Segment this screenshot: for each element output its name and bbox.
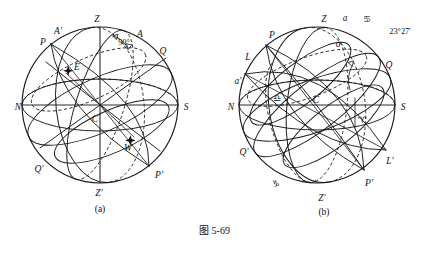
label-angle-90-a: 90° bbox=[118, 38, 130, 47]
figure-container: Z Z' A' A P Q E N S C W Q' P' 90° (a) bbox=[0, 0, 429, 253]
east-star-marker-a bbox=[63, 66, 73, 76]
label-north-a: N bbox=[14, 102, 22, 112]
label-pole-south-a: P' bbox=[154, 170, 164, 180]
declination-parallel-lower-ellipse-a bbox=[47, 87, 177, 176]
label-south-b: S bbox=[401, 102, 406, 112]
label-alpha-left-b: a' bbox=[235, 76, 243, 86]
label-equator-lower-left-b: Q' bbox=[240, 147, 250, 157]
label-center-b: C bbox=[313, 95, 320, 105]
label-azimuth-right-a: A bbox=[136, 29, 143, 39]
figure-caption: 图 5-69 bbox=[0, 222, 429, 237]
meridian-back-b bbox=[309, 27, 355, 185]
label-zenith-b: Z bbox=[321, 14, 327, 24]
label-sigma-b: σ bbox=[336, 39, 341, 49]
label-west-a: W bbox=[124, 143, 133, 153]
label-ecliptic-pole-right-b: L' bbox=[385, 156, 394, 166]
label-pole-north-b: P bbox=[268, 30, 275, 40]
label-equator-upper-a: Q bbox=[160, 46, 167, 56]
label-east-a: E bbox=[73, 62, 80, 72]
label-obliquity-b: 23°27' bbox=[389, 27, 411, 36]
declination-parallel-upper-b bbox=[241, 37, 373, 118]
label-equator-right-b: Q bbox=[386, 60, 393, 70]
label-nadir-a: Z' bbox=[95, 188, 103, 198]
sign-libra-icon-b: ♎ bbox=[273, 93, 281, 103]
label-ecliptic-pole-left-b: L bbox=[244, 52, 250, 62]
label-pole-north-a: P bbox=[39, 37, 46, 47]
label-north-b: N bbox=[227, 102, 235, 112]
sign-capricorn-icon-b: ♑ bbox=[272, 179, 280, 189]
obliquity-arrow-head-b bbox=[348, 61, 353, 66]
vertical-circle-front-a bbox=[53, 23, 124, 179]
declination-parallel-upper-group-b bbox=[241, 37, 373, 118]
label-zenith-a: Z bbox=[94, 14, 100, 24]
sign-cancer-icon-b: ♋ bbox=[363, 14, 371, 24]
label-south-a: S bbox=[184, 102, 189, 112]
label-pole-south-b: P' bbox=[364, 178, 374, 188]
panel-caption-a: (a) bbox=[95, 204, 106, 215]
label-nadir-b: Z' bbox=[318, 193, 326, 203]
hour-circle-a-front-b bbox=[259, 28, 328, 189]
label-azimuth-left-a: A' bbox=[53, 26, 63, 36]
diagram-panel-b: Z a ♋ 23°27' P σ L Q a' ♎ N S C ♈ Q' ♑ L… bbox=[214, 0, 429, 222]
diagram-panel-a: Z Z' A' A P Q E N S C W Q' P' 90° (a) bbox=[0, 0, 214, 222]
sign-aries-icon-b: ♈ bbox=[358, 115, 367, 125]
label-alpha-top-b: a bbox=[343, 13, 348, 23]
label-equator-lower-a: Q' bbox=[35, 164, 45, 174]
panel-caption-b: (b) bbox=[318, 207, 329, 218]
declination-parallel-lower-a bbox=[47, 87, 177, 176]
label-center-a: C bbox=[92, 114, 99, 124]
